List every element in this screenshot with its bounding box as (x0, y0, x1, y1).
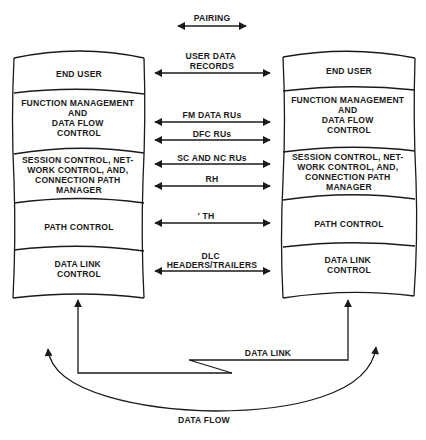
left-divider-4 (14, 246, 144, 251)
pairing-indicator: PAIRING (178, 13, 246, 26)
left-divider-1 (14, 89, 144, 94)
exchange-user-data-records: USER DATA RECORDS (155, 51, 270, 73)
data-flow: DATA FLOW (48, 347, 376, 425)
exchange-fm-data-rus: FM DATA RUs (155, 110, 270, 122)
left-divider-3 (14, 199, 144, 204)
data-link-label: DATA LINK (245, 348, 292, 358)
left-stack-left-edge (13, 58, 15, 298)
data-flow-label: DATA FLOW (178, 415, 230, 425)
left-layer-path-control: PATH CONTROL (44, 222, 113, 232)
exchange-label: USER DATA RECORDS (186, 51, 239, 71)
left-stack-top-edge (14, 51, 144, 58)
exchange-label: DLC HEADERS/TRAILERS (167, 251, 258, 270)
left-layer-session-control: SESSION CONTROL, NET- WORK CONTROL, AND,… (22, 155, 136, 195)
right-divider-4 (283, 243, 415, 247)
right-divider-3 (283, 195, 415, 200)
exchange-th: ' TH (155, 211, 270, 223)
right-layer-data-link-control: DATA LINK CONTROL (324, 255, 373, 275)
exchange-label: ' TH (198, 211, 215, 221)
left-protocol-stack: END USER FUNCTION MANAGEMENT AND DATA FL… (13, 51, 145, 298)
left-layer-data-link-control: DATA LINK CONTROL (54, 259, 103, 279)
exchange-rh: RH (155, 174, 270, 186)
exchange-label: FM DATA RUs (183, 110, 242, 120)
left-stack-bottom-edge (13, 294, 144, 298)
left-layer-end-user: END USER (56, 69, 103, 79)
right-stack-bottom-edge (283, 292, 414, 298)
exchange-label: RH (206, 174, 219, 184)
exchange-dlc-headers-trailers: DLC HEADERS/TRAILERS (155, 251, 270, 271)
pairing-label: PAIRING (194, 13, 231, 23)
data-link-right-segment (189, 300, 348, 373)
right-stack-left-edge (282, 57, 285, 298)
exchange-dfc-rus: DFC RUs (155, 129, 270, 140)
right-protocol-stack: END USER FUNCTION MANAGEMENT AND DATA FL… (282, 51, 417, 298)
left-divider-2 (14, 148, 144, 154)
exchange-label: DFC RUs (193, 129, 232, 139)
right-stack-right-edge (414, 58, 417, 296)
data-link: DATA LINK (78, 300, 348, 373)
right-layer-session-control: SESSION CONTROL, NET- WORK CONTROL, AND,… (292, 152, 406, 192)
data-flow-curve (48, 347, 376, 411)
exchange-sc-and-nc-rus: SC AND NC RUs (155, 153, 270, 164)
right-layer-end-user: END USER (326, 66, 373, 76)
left-layer-function-management: FUNCTION MANAGEMENT AND DATA FLOW CONTRO… (21, 98, 137, 138)
exchange-label: SC AND NC RUs (177, 153, 247, 163)
right-layer-path-control: PATH CONTROL (314, 219, 383, 229)
sna-layers-diagram: PAIRING END USER FUNCTION MANAGEMENT AND… (0, 0, 426, 440)
right-stack-top-edge (283, 51, 415, 58)
data-link-left-segment (78, 300, 232, 373)
right-divider-1 (283, 87, 415, 91)
right-layer-function-management: FUNCTION MANAGEMENT AND DATA FLOW CONTRO… (291, 95, 407, 135)
peer-exchanges: USER DATA RECORDS FM DATA RUs DFC RUs SC… (155, 51, 270, 271)
